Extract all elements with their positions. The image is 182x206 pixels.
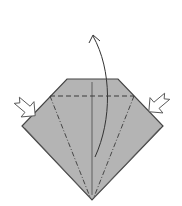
- origami-diagram: [0, 0, 182, 206]
- paper-shape: [22, 79, 163, 200]
- diagram-canvas: [0, 0, 182, 206]
